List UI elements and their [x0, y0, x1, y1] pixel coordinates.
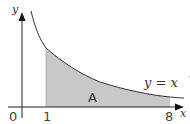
equation-exponent: − 1 3 — [188, 70, 190, 85]
x-tick-8: 8 — [165, 110, 173, 123]
equation-lhs: y = x — [144, 75, 178, 90]
x-axis-label: x — [180, 108, 186, 119]
y-axis-label: y — [12, 4, 18, 15]
region-label: A — [88, 91, 97, 104]
graph-canvas — [0, 0, 190, 124]
curve-equation: y = x − 1 3 — [144, 76, 178, 89]
x-tick-1: 1 — [43, 110, 51, 123]
y-axis-arrow-icon — [19, 12, 26, 21]
exponent-sign: − — [188, 74, 190, 81]
origin-label: 0 — [9, 110, 17, 123]
